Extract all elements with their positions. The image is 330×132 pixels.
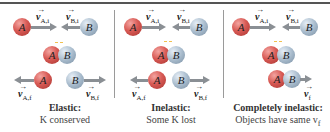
subcaption-elastic: K conserved	[10, 114, 120, 125]
ball-b-initial: B	[80, 18, 98, 36]
ball-a-initial: A	[124, 18, 142, 36]
velocity-label-b-final: →vB,f	[86, 88, 99, 102]
velocity-label-a-final: →vA,f	[18, 88, 32, 102]
caption-inelastic: Inelastic:	[116, 102, 226, 113]
velocity-arrow-a-initial	[31, 26, 51, 29]
ball-a-initial: A	[13, 18, 31, 36]
collision-spark-icon	[274, 41, 282, 46]
velocity-label-a-initial: →vA,i	[255, 11, 268, 25]
ball-b-final: B	[66, 71, 84, 89]
velocity-label-b-initial: →vB,i	[286, 11, 299, 25]
ball-b-collision: B	[58, 46, 76, 64]
velocity-label-a-final: →vA,f	[132, 88, 146, 102]
velocity-label-b-initial: →vB,i	[177, 11, 190, 25]
ball-a-initial: A	[232, 18, 250, 36]
velocity-label-b-final: →vB,f	[194, 88, 207, 102]
panel-completely-inelastic: A →vA,i B →vB,i A B A B →vf Completely i…	[220, 4, 330, 132]
caption-elastic: Elastic:	[10, 102, 120, 113]
velocity-arrow-b-initial	[178, 26, 190, 29]
velocity-label-a-initial: →vA,i	[36, 11, 49, 25]
velocity-arrow-b-initial	[67, 26, 80, 29]
ball-b-final-combined: B	[283, 70, 301, 88]
ball-a-final: A	[34, 71, 52, 89]
subcaption-inelastic: Some K lost	[116, 114, 226, 125]
panel-inelastic: A →vA,i B →vB,i A B A →vA,f B →vB,f Inel…	[110, 4, 220, 132]
ball-b-initial: B	[190, 18, 208, 36]
velocity-label-final: →vf	[304, 88, 311, 102]
ball-b-collision: B	[167, 46, 185, 64]
ball-b-initial: B	[300, 18, 318, 36]
velocity-arrow-a-initial	[250, 26, 270, 29]
subcaption-completely-inelastic: Objects have same vf	[222, 114, 330, 128]
velocity-label-a-initial: →vA,i	[146, 11, 159, 25]
caption-completely-inelastic: Completely inelastic:	[222, 102, 330, 113]
velocity-arrow-final	[300, 78, 306, 81]
collision-spark-icon	[164, 41, 172, 46]
panel-elastic: A →vA,i B →vB,i A B A →vA,f B →vB,f Elas…	[0, 4, 110, 132]
velocity-label-b-initial: →vB,i	[66, 11, 79, 25]
ball-b-collision: B	[277, 46, 295, 64]
velocity-arrow-a-initial	[142, 26, 160, 29]
velocity-arrow-b-initial	[288, 26, 300, 29]
ball-b-final: B	[172, 71, 190, 89]
ball-a-final: A	[148, 71, 166, 89]
